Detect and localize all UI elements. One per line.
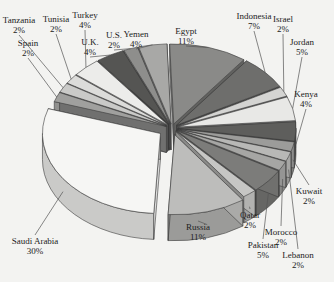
leader-line-saudi-arabia [35,192,63,235]
value-label-turkey: 4% [79,20,92,30]
value-label-saudi-arabia: 30% [27,246,44,256]
label-u-k: U.K. [81,37,99,47]
label-tunisia: Tunisia [43,14,70,24]
value-label-yemen: 4% [130,39,143,49]
value-label-spain: 2% [22,48,35,58]
label-israel: Israel [273,14,293,24]
label-russia: Russia [186,222,210,232]
leader-line-tunisia [56,34,71,79]
value-label-israel: 2% [277,24,290,34]
label-kenya: Kenya [294,89,318,99]
label-saudi-arabia: Saudi Arabia [12,236,59,246]
value-label-indonesia: 7% [248,21,261,31]
value-label-tanzania: 2% [13,25,26,35]
label-kuwait: Kuwait [296,186,323,196]
label-turkey: Turkey [72,10,98,20]
leader-line-spain [28,58,57,97]
label-tanzania: Tanzania [3,15,35,25]
value-label-jordan: 5% [296,47,309,57]
value-label-russia: 11% [190,232,207,242]
value-label-egypt: 11% [178,36,195,46]
leader-line-lebanon [289,170,298,249]
value-label-lebanon: 2% [292,260,305,270]
label-qatar: Qatar [240,210,260,220]
label-indonesia: Indonesia [237,11,272,21]
value-label-kuwait: 2% [303,196,316,206]
value-label-kenya: 4% [300,99,313,109]
label-yemen: Yemen [123,29,149,39]
label-egypt: Egypt [175,26,197,36]
value-label-u-k: 4% [84,47,97,57]
label-spain: Spain [18,38,39,48]
leader-line-kuwait [293,160,309,185]
label-pakistan: Pakistan [248,240,279,250]
value-label-tunisia: 2% [50,24,63,34]
label-jordan: Jordan [290,37,314,47]
label-morocco: Morocco [265,227,298,237]
leader-line-kenya [296,109,306,144]
value-label-qatar: 2% [244,220,257,230]
pie-chart: Egypt11%Indonesia7%Israel2%Jordan5%Kenya… [0,0,334,282]
leader-line-israel [283,34,284,92]
value-label-u-s: 2% [108,40,121,50]
label-lebanon: Lebanon [282,250,314,260]
label-u-s: U.S. [106,30,122,40]
value-label-pakistan: 5% [257,250,270,260]
